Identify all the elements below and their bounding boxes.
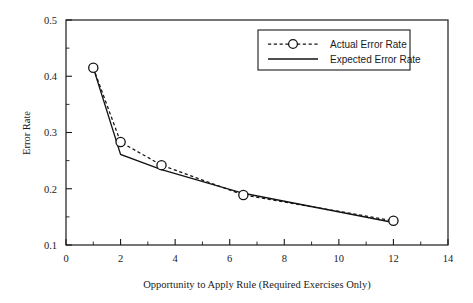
y-tick-label: 0.1 xyxy=(44,240,57,251)
error-rate-line-chart: 02468101214 0.10.20.30.40.5 Opportunity … xyxy=(0,0,473,303)
data-point-marker xyxy=(157,161,166,170)
x-axis-ticks: 02468101214 xyxy=(63,239,454,264)
x-tick-label: 4 xyxy=(173,253,179,264)
x-tick-label: 6 xyxy=(227,253,232,264)
data-point-marker xyxy=(89,63,98,72)
y-tick-label: 0.5 xyxy=(44,15,57,26)
x-tick-label: 14 xyxy=(443,253,454,264)
x-axis-title: Opportunity to Apply Rule (Required Exer… xyxy=(143,279,371,291)
x-tick-label: 0 xyxy=(63,253,68,264)
data-point-marker xyxy=(239,190,248,199)
y-axis-title: Error Rate xyxy=(21,111,32,155)
legend: Actual Error Rate Expected Error Rate xyxy=(258,30,421,70)
data-point-markers xyxy=(89,63,398,225)
y-tick-label: 0.2 xyxy=(44,184,57,195)
x-tick-label: 12 xyxy=(388,253,399,264)
data-point-marker xyxy=(389,216,398,225)
x-tick-label: 10 xyxy=(334,253,345,264)
data-point-marker xyxy=(116,137,125,146)
legend-swatch-actual-marker xyxy=(289,40,298,49)
legend-label-actual: Actual Error Rate xyxy=(330,39,407,50)
y-tick-label: 0.3 xyxy=(44,127,57,138)
x-tick-label: 2 xyxy=(118,253,123,264)
x-tick-label: 8 xyxy=(282,253,287,264)
legend-label-expected: Expected Error Rate xyxy=(330,54,421,65)
y-tick-label: 0.4 xyxy=(44,71,58,82)
y-axis-ticks: 0.10.20.30.40.5 xyxy=(44,15,72,251)
chart-canvas: 02468101214 0.10.20.30.40.5 Opportunity … xyxy=(0,0,473,303)
